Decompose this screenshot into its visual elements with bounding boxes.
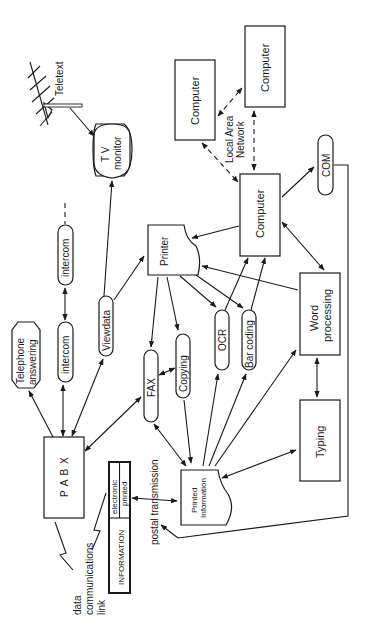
edge-pabx-viewdata [72,359,103,436]
edge-printed-barcoding [209,374,246,466]
edge-computer-printer [192,226,239,238]
lan-label-1: Local Area [224,115,235,163]
printer-label: Printer [159,236,170,266]
postal-transmission-label: postal transmission [149,459,160,545]
edge-printer-barcoding [196,275,243,308]
edge-ocr-computer [225,258,248,310]
data-link-lightning-icon [55,522,73,570]
edge-lan-ab [218,88,242,116]
fax-label: FAX [146,378,157,397]
edge-barcoding-computer [251,258,265,310]
edge-printed-typing [222,450,296,478]
pabx-label: P A B X [59,456,70,497]
bar-coding-label: Bar coding [244,320,255,368]
printed-info-label-2: Information [199,478,208,518]
edge-wp-printer [202,266,298,290]
data-link-label-1: data [72,595,83,615]
word-processing-label-1: Word [308,305,320,331]
office-information-flow-diagram: Teletext T V monitor Computer Computer L… [0,0,365,630]
electronic-label: electronic [110,480,119,514]
edge-viewdata-tv [104,181,112,296]
edge-printer-copying [167,277,178,330]
ocr-label: OCR [217,329,228,351]
lan-label-2: Network [235,120,246,158]
viewdata-label: Viewdata [101,310,112,351]
edge-printer-fax [151,277,158,347]
copying-label: Copying [178,355,189,392]
telephone-label-1: Telephone [15,337,26,384]
data-link-label-2: communications [84,543,95,615]
information-label: INFORMATION [117,529,126,585]
teletext-label: Teletext [54,61,65,96]
tv-monitor-label-2: monitor [112,136,123,170]
edge-fax-copying [159,368,175,375]
computer-main-label: Computer [254,189,266,238]
computer-a-label: Computer [189,76,201,125]
word-processing-label-2: processing [321,289,333,342]
com-label: COM [321,154,332,177]
tv-monitor-label-1: T V [100,146,111,162]
edge-computer-wp [282,222,324,270]
intercom-lower-label: intercom [60,336,71,374]
data-link-label-3: link [96,599,107,615]
typing-label: Typing [314,426,326,458]
printed-label: printed [120,482,129,506]
printer-node [148,225,200,275]
edge-computer-com [282,167,314,197]
edge-printed-ocr [203,374,218,466]
word-processing-node [300,273,340,355]
computer-b-label: Computer [259,43,271,92]
edge-copying-printed [184,400,191,463]
edge-viewdata-printer [114,256,144,300]
edge-pabx-fax [85,397,141,451]
printed-info-label-1: Printed [190,488,199,513]
edge-teletext-tv [70,108,94,136]
edge-printer-ocr [180,276,216,307]
intercom-upper-label: intercom [60,239,71,277]
edge-pabx-telephone [29,391,53,437]
telephone-label-2: answering [27,339,38,385]
